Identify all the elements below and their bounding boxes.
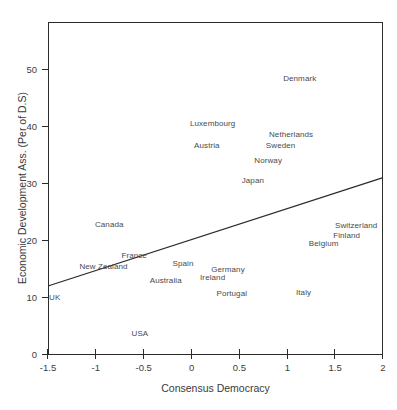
- data-point-label: USA: [132, 328, 149, 337]
- x-tick-label: 2: [363, 362, 397, 373]
- data-point-label: Spain: [172, 259, 193, 268]
- x-tick-mark: [239, 349, 240, 359]
- plot-area: [48, 22, 383, 355]
- data-point-label: Luxembourg: [190, 118, 235, 127]
- y-tick-label: 10: [0, 292, 37, 303]
- data-point-label: Australia: [150, 275, 182, 284]
- data-point-label: France: [121, 251, 147, 260]
- x-tick-label: 0: [172, 362, 212, 373]
- x-tick-label: 1.5: [315, 362, 355, 373]
- data-point-label: UK: [49, 292, 60, 301]
- x-tick-mark: [287, 349, 288, 359]
- y-tick-label: 30: [0, 178, 37, 189]
- x-tick-label: -1: [76, 362, 116, 373]
- data-point-label: Austria: [194, 141, 220, 150]
- y-tick-label: 20: [0, 235, 37, 246]
- data-point-label: Norway: [254, 155, 282, 164]
- data-point-label: Sweden: [266, 141, 296, 150]
- scatter-plot-figure: Economic Development Ass. (Per of D.S) 0…: [0, 0, 397, 410]
- x-axis-title: Consensus Democracy: [48, 382, 383, 394]
- data-point-label: Japan: [242, 175, 264, 184]
- x-tick-label: -1.5: [28, 362, 68, 373]
- data-point-label: Ireland: [200, 272, 225, 281]
- y-tick-label: 40: [0, 121, 37, 132]
- x-tick-mark: [382, 349, 383, 359]
- x-tick-mark: [334, 349, 335, 359]
- x-tick-mark: [95, 349, 96, 359]
- data-point-label: Denmark: [283, 73, 316, 82]
- x-tick-mark: [143, 349, 144, 359]
- data-point-label: Belgium: [309, 239, 339, 248]
- x-tick-mark: [47, 349, 48, 359]
- data-point-label: New Zealand: [79, 262, 127, 271]
- data-point-label: Portugal: [216, 288, 247, 297]
- y-tick-label: 0: [0, 349, 37, 360]
- x-tick-mark: [191, 349, 192, 359]
- data-point-label: Switzerland: [335, 220, 377, 229]
- data-point-label: Netherlands: [269, 129, 313, 138]
- y-tick-label: 50: [0, 64, 37, 75]
- data-point-label: Canada: [95, 219, 124, 228]
- data-point-label: Italy: [296, 287, 311, 296]
- x-tick-label: 0.5: [219, 362, 259, 373]
- x-tick-label: 1: [267, 362, 307, 373]
- x-tick-label: -0.5: [124, 362, 164, 373]
